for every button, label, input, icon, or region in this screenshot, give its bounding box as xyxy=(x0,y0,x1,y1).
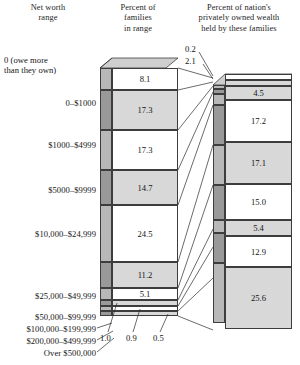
bar-wealth-side-segment xyxy=(213,185,225,220)
bar-wealth-side-segment xyxy=(213,94,225,105)
row-label-100000-199999: $100,000–$199,999 xyxy=(0,324,96,334)
row-label-25000-49999: $25,000–$49,999 xyxy=(0,291,96,301)
header-line: Percent of nation's xyxy=(180,3,298,13)
bar-wealth-value: 17.1 xyxy=(251,158,266,168)
bar-families-value: 8.1 xyxy=(140,74,151,84)
bar-families-segment: 8.1 xyxy=(112,68,178,90)
chart-canvas: Net worth range Percent of families in r… xyxy=(0,0,300,365)
column-header-net-worth: Net worth range xyxy=(2,3,94,24)
bar-families-value: 17.3 xyxy=(137,105,152,115)
bar-families-side-segment xyxy=(100,262,112,288)
bar-wealth-side-segment xyxy=(213,220,225,233)
header-line: in range xyxy=(99,24,177,34)
families-value-0-5: 0.5 xyxy=(153,333,164,343)
bar-families-segment: 17.3 xyxy=(112,130,178,170)
bar-families-segment xyxy=(112,311,178,316)
bar-wealth-value: 5.4 xyxy=(253,223,264,233)
row-label-200000-499999: $200,000–$499,999 xyxy=(0,336,96,346)
column-header-percent-wealth: Percent of nation's privately owned weal… xyxy=(180,3,298,34)
bar-families-value: 5.1 xyxy=(140,289,151,299)
bar-families-side-segment xyxy=(100,170,112,205)
bar-families-side-segment xyxy=(100,90,112,130)
bar-families-value: 14.7 xyxy=(137,183,152,193)
families-value-0-9: 0.9 xyxy=(126,333,137,343)
bar-wealth-side-segment xyxy=(213,145,225,185)
bar-families-segment: 14.7 xyxy=(112,170,178,205)
row-label-10000-24999: $10,000–$24,999 xyxy=(0,229,96,239)
bar-wealth-value: 12.9 xyxy=(251,247,266,257)
header-line: Percent of xyxy=(99,3,177,13)
header-line: held by these families xyxy=(180,24,298,34)
families-value-1-0: 1.0 xyxy=(100,333,111,343)
row-label-50000-99999: $50,000–$99,999 xyxy=(0,312,96,322)
bar-families-side-segment xyxy=(100,68,112,90)
bar-families-segment: 5.1 xyxy=(112,288,178,300)
row-label-1000-4999: $1000–$4999 xyxy=(0,140,96,150)
row-label-zero: 0 (owe more than they own) xyxy=(4,55,96,75)
bar-families-side-segment xyxy=(100,311,112,316)
bar-wealth-value: 15.0 xyxy=(251,197,266,207)
bar-families-segment: 24.5 xyxy=(112,205,178,262)
bar-families-value: 24.5 xyxy=(137,229,152,239)
wealth-callout-2-1: 2.1 xyxy=(185,56,196,66)
header-line: Net worth xyxy=(2,3,94,13)
bar-wealth-value: 4.5 xyxy=(253,88,264,98)
bar-families-segment: 11.2 xyxy=(112,262,178,288)
column-header-percent-families: Percent of families in range xyxy=(99,3,177,34)
row-label-over-500000: Over $500,000 xyxy=(0,348,96,358)
bar-wealth-segment: 5.4 xyxy=(225,220,292,236)
bar-families-side-segment xyxy=(100,288,112,300)
bar-wealth-segment: 15.0 xyxy=(225,184,292,220)
row-label-line: than they own) xyxy=(4,65,96,75)
bar-families-value: 11.2 xyxy=(138,270,153,280)
wealth-callout-0-2: 0.2 xyxy=(185,44,196,54)
bar-wealth-segment: 17.2 xyxy=(225,100,292,142)
bar-wealth-side-segment xyxy=(213,263,225,323)
header-line: range xyxy=(2,13,94,23)
bar-families-side-segment xyxy=(100,130,112,170)
bar-families-value: 17.3 xyxy=(137,145,152,155)
bar-families-side-segment xyxy=(100,205,112,262)
bar-wealth-segment: 12.9 xyxy=(225,236,292,267)
header-line: privately owned wealth xyxy=(180,13,298,23)
bar-wealth-value: 17.2 xyxy=(251,116,266,126)
row-label-0-1000: 0–$1000 xyxy=(0,98,96,108)
bar-families-segment: 17.3 xyxy=(112,90,178,130)
bar-wealth-side-segment xyxy=(213,233,225,263)
row-label-5000-9999: $5000–$9999 xyxy=(0,185,96,195)
bar-wealth-value: 25.6 xyxy=(251,293,266,303)
bar-wealth-side-segment xyxy=(213,105,225,145)
bar-wealth-segment: 4.5 xyxy=(225,86,292,100)
bar-wealth-segment: 17.1 xyxy=(225,142,292,184)
header-line: families xyxy=(99,13,177,23)
bar-wealth-segment: 25.6 xyxy=(225,267,292,329)
row-label-line: 0 (owe more xyxy=(4,55,96,65)
